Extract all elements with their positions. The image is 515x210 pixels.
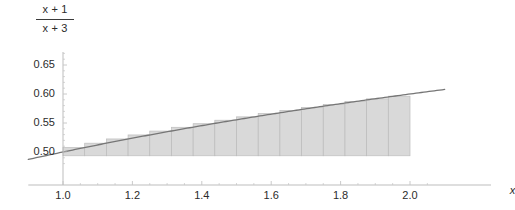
- title-denominator: x + 3: [28, 22, 82, 36]
- title-fraction-bar: [36, 19, 74, 20]
- x-tick-label: 1.6: [254, 189, 288, 201]
- riemann-bar: [237, 117, 259, 156]
- x-tick-label: 1.2: [115, 189, 149, 201]
- riemann-bar: [171, 127, 193, 155]
- y-tick-label: 0.50: [21, 145, 55, 157]
- riemann-bar: [367, 99, 389, 156]
- riemann-bar: [388, 96, 410, 156]
- riemann-bar: [345, 102, 367, 156]
- riemann-bar: [280, 110, 302, 155]
- plot-title: x + 1 x + 3: [28, 3, 82, 36]
- x-tick-label: 2.0: [393, 189, 427, 201]
- y-tick-label: 0.55: [21, 116, 55, 128]
- x-axis-label: x: [510, 184, 515, 196]
- riemann-bars-layer: [63, 96, 410, 156]
- y-tick-label: 0.65: [21, 58, 55, 70]
- x-tick-label: 1.0: [46, 189, 80, 201]
- riemann-bar: [215, 120, 237, 156]
- x-tick-label: 1.8: [324, 189, 358, 201]
- y-tick-label: 0.60: [21, 87, 55, 99]
- riemann-bar: [323, 104, 345, 155]
- title-numerator: x + 1: [28, 3, 82, 18]
- riemann-bar: [193, 124, 215, 156]
- x-tick-label: 1.4: [185, 189, 219, 201]
- riemann-bar: [258, 114, 280, 156]
- riemann-bar: [302, 107, 324, 155]
